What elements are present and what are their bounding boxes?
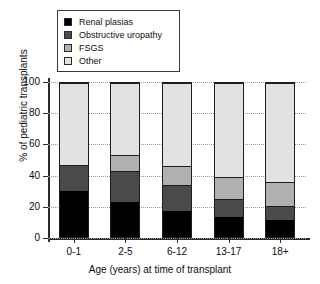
bar-6-12 xyxy=(162,82,192,238)
y-tick-label: 100 xyxy=(12,77,40,87)
legend-label-obstructive-uropathy: Obstructive uropathy xyxy=(79,30,162,40)
x-axis-title: Age (years) at time of transplant xyxy=(0,264,320,275)
bar-segment xyxy=(163,185,191,211)
bar-segment xyxy=(163,211,191,237)
legend-label-fsgs: FSGS xyxy=(79,43,104,53)
legend-swatch-obstructive-uropathy xyxy=(64,31,72,39)
bar-segment xyxy=(111,155,139,170)
bar-segment xyxy=(266,83,294,182)
x-tick-mark xyxy=(125,238,126,243)
bar-segment xyxy=(60,191,88,237)
x-tick-label-2-5: 2-5 xyxy=(97,246,153,257)
bar-segment xyxy=(215,177,243,199)
bar-13-17 xyxy=(214,82,244,238)
bar-segment xyxy=(215,217,243,237)
legend-swatch-renal-plasias xyxy=(64,18,72,26)
x-tick-label-6-12: 6-12 xyxy=(149,246,205,257)
x-tick-label-0-1: 0-1 xyxy=(46,246,102,257)
bar-2-5 xyxy=(110,82,140,238)
legend-label-renal-plasias: Renal plasias xyxy=(79,17,133,27)
bar-segment xyxy=(266,182,294,207)
legend-swatch-fsgs xyxy=(64,44,72,52)
x-tick-mark xyxy=(74,238,75,243)
bar-segment xyxy=(163,166,191,184)
y-tick-label: 0 xyxy=(12,233,40,243)
bar-segment xyxy=(266,220,294,237)
chart-legend: Renal plasias Obstructive uropathy FSGS … xyxy=(57,10,180,72)
x-tick-label-18+: 18+ xyxy=(252,246,308,257)
y-tick-label: 20 xyxy=(12,202,40,212)
legend-item-other: Other xyxy=(64,54,173,67)
y-tick-label: 60 xyxy=(12,139,40,149)
legend-item-fsgs: FSGS xyxy=(64,41,173,54)
plot-area xyxy=(48,82,306,238)
x-tick-mark xyxy=(229,238,230,243)
bar-18+ xyxy=(265,82,295,238)
y-axis-title: % of pediatric transplants xyxy=(18,31,29,181)
bar-segment xyxy=(266,206,294,220)
legend-item-renal-plasias: Renal plasias xyxy=(64,15,173,28)
x-tick-label-13-17: 13-17 xyxy=(201,246,257,257)
bar-segment xyxy=(60,165,88,191)
bar-0-1 xyxy=(59,82,89,238)
bar-segment xyxy=(111,202,139,237)
bar-segment xyxy=(163,83,191,166)
x-tick-mark xyxy=(177,238,178,243)
bar-segment xyxy=(215,83,243,177)
bar-segment xyxy=(111,171,139,202)
y-tick-label: 80 xyxy=(12,108,40,118)
legend-label-other: Other xyxy=(79,56,102,66)
legend-item-obstructive-uropathy: Obstructive uropathy xyxy=(64,28,173,41)
bar-segment xyxy=(111,83,139,155)
y-tick-label: 40 xyxy=(12,171,40,181)
stacked-bar-chart: Renal plasias Obstructive uropathy FSGS … xyxy=(0,0,320,284)
legend-swatch-other xyxy=(64,57,72,65)
bar-segment xyxy=(215,199,243,217)
x-tick-mark xyxy=(280,238,281,243)
bar-segment xyxy=(60,83,88,165)
